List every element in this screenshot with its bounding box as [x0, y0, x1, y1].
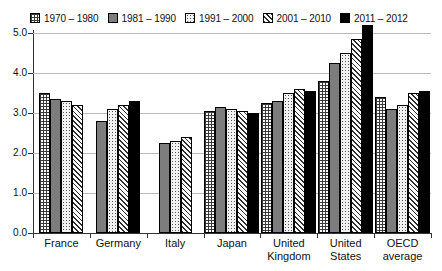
bar[interactable] [318, 81, 329, 233]
legend-swatch-icon [185, 13, 195, 23]
x-axis-category-label-line: Germany [90, 237, 147, 250]
y-axis-tick-label: 3.0 [1, 108, 27, 118]
bar[interactable] [215, 107, 226, 233]
bar[interactable] [329, 63, 340, 233]
x-axis-category-label-line: OECD [374, 237, 431, 250]
bar[interactable] [96, 121, 107, 233]
x-axis-category-label-line: States [317, 250, 374, 263]
bar[interactable] [226, 109, 237, 233]
x-axis-category-label: France [33, 237, 90, 250]
bar-group [33, 33, 90, 233]
bar-group [204, 33, 261, 233]
legend-label: 1991 – 2000 [199, 13, 254, 24]
y-axis-tick-label: 2.0 [1, 148, 27, 158]
legend-swatch-icon [30, 13, 40, 23]
bar[interactable] [50, 99, 61, 233]
bar-group [90, 33, 147, 233]
bar[interactable] [386, 109, 397, 233]
x-axis-category-label: Japan [204, 237, 261, 250]
bar[interactable] [397, 105, 408, 233]
x-axis-category-label-line: United [317, 237, 374, 250]
bar-group [260, 33, 317, 233]
bar[interactable] [181, 137, 192, 233]
bar[interactable] [39, 93, 50, 233]
legend-entry[interactable]: 2001 – 2010 [263, 13, 332, 24]
bar[interactable] [340, 53, 351, 233]
bar[interactable] [118, 105, 129, 233]
legend-entry[interactable]: 1970 – 1980 [30, 13, 99, 24]
bar[interactable] [159, 143, 170, 233]
x-axis-category-label-line: United [260, 237, 317, 250]
x-axis-category-label-line: Japan [204, 237, 261, 250]
x-axis-category-label: UnitedStates [317, 237, 374, 263]
x-axis-category-label: UnitedKingdom [260, 237, 317, 263]
bar[interactable] [408, 93, 419, 233]
bar[interactable] [72, 105, 83, 233]
y-axis-tick-label: 5.0 [1, 28, 27, 38]
x-axis-tick [431, 233, 432, 238]
bar[interactable] [170, 141, 181, 233]
bar[interactable] [129, 101, 140, 233]
legend-entry[interactable]: 1991 – 2000 [185, 13, 254, 24]
bar[interactable] [351, 39, 362, 233]
bar-chart: 1970 – 19801981 – 19901991 – 20002001 – … [0, 0, 442, 271]
x-axis-category-label-line: average [374, 250, 431, 263]
bar[interactable] [61, 101, 72, 233]
bar[interactable] [294, 89, 305, 233]
bar[interactable] [272, 101, 283, 233]
legend-swatch-icon [263, 13, 273, 23]
bar[interactable] [204, 111, 215, 233]
bar[interactable] [419, 91, 430, 233]
bar[interactable] [362, 25, 373, 233]
plot-area [33, 33, 431, 233]
y-axis-tick-label: 0.0 [1, 228, 27, 238]
x-axis-category-label: OECDaverage [374, 237, 431, 263]
bar[interactable] [237, 111, 248, 233]
legend-swatch-icon [108, 13, 118, 23]
y-axis-tick-label: 1.0 [1, 188, 27, 198]
bar[interactable] [107, 109, 118, 233]
x-axis-category-label: Italy [147, 237, 204, 250]
bar[interactable] [375, 97, 386, 233]
x-axis-category-label-line: Kingdom [260, 250, 317, 263]
bar-group [374, 33, 431, 233]
legend-label: 1981 – 1990 [122, 13, 177, 24]
bar[interactable] [261, 103, 272, 233]
bar[interactable] [283, 93, 294, 233]
bar[interactable] [305, 91, 316, 233]
bar[interactable] [248, 113, 259, 233]
x-axis-category-label: Germany [90, 237, 147, 250]
bar-group [147, 33, 204, 233]
legend-label: 1970 – 1980 [44, 13, 99, 24]
x-axis-category-label-line: Italy [147, 237, 204, 250]
legend-label: 2001 – 2010 [277, 13, 332, 24]
y-axis-tick-label: 4.0 [1, 68, 27, 78]
legend-label: 2011 – 2012 [354, 13, 408, 24]
x-axis-line [33, 233, 431, 234]
legend-entry[interactable]: 1981 – 1990 [108, 13, 177, 24]
legend-swatch-icon [340, 13, 350, 23]
x-axis-category-label-line: France [33, 237, 90, 250]
legend-entry[interactable]: 2011 – 2012 [340, 13, 408, 24]
bar-group [317, 33, 374, 233]
